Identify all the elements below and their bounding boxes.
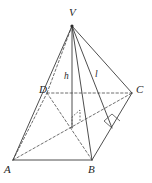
measure-label-height: h [64, 72, 69, 82]
edge-A-D [13, 93, 47, 160]
right-angle-at-height-foot [72, 110, 80, 128]
pyramid-drawing [0, 0, 152, 183]
dashed-edge-group [13, 26, 132, 160]
geometry-figure: VABCD hl [0, 0, 152, 183]
diagonal-D-B [47, 93, 92, 160]
vertex-dot-group [70, 24, 73, 27]
vertex-label-v: V [69, 7, 76, 18]
vertex-label-b: B [88, 164, 95, 175]
vertex-label-c: C [136, 84, 143, 95]
measure-line-group [72, 26, 112, 128]
apex-point [70, 24, 73, 27]
measure-label-slant-height: l [95, 70, 98, 80]
vertex-label-a: A [4, 164, 11, 175]
vertex-label-d: D [39, 84, 47, 95]
edge-V-C [72, 26, 132, 93]
diagonal-A-C [13, 93, 132, 160]
edge-B-C [92, 93, 132, 160]
measure-line-slant-height [72, 26, 112, 128]
edge-V-D [47, 26, 72, 93]
